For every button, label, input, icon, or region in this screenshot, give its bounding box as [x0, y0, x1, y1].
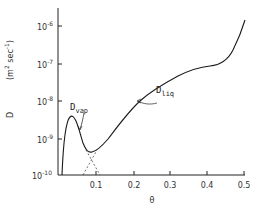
dliq-label: Dliq [137, 85, 174, 104]
svg-text:D: D [6, 112, 15, 118]
svg-text:0.1: 0.1 [90, 181, 103, 190]
x-axis-title: θ [150, 196, 155, 205]
y-axis-title: D [6, 112, 15, 118]
svg-text:10-8: 10-8 [37, 95, 53, 107]
dvap-extrapolation [86, 150, 100, 175]
svg-text:10-10: 10-10 [32, 169, 52, 181]
diffusivity-curve [62, 20, 245, 175]
svg-text:10-7: 10-7 [37, 58, 53, 70]
y-ticks [58, 26, 62, 139]
svg-text:0.5: 0.5 [238, 181, 251, 190]
svg-text:0.2: 0.2 [128, 181, 141, 190]
x-tick-labels: 0.1 0.2 0.3 0.4 0.5 [90, 181, 251, 190]
x-ticks [96, 171, 244, 175]
svg-text:0.4: 0.4 [201, 181, 214, 190]
svg-text:Dliq: Dliq [156, 85, 174, 98]
svg-text:Dvap: Dvap [70, 102, 88, 115]
y-tick-labels: 10-6 10-7 10-8 10-9 10-10 [32, 20, 53, 181]
svg-text:10-6: 10-6 [37, 20, 53, 32]
dliq-extrapolation [83, 150, 97, 175]
svg-text:(m2 sec-1): (m2 sec-1) [3, 40, 15, 80]
svg-text:0.3: 0.3 [164, 181, 177, 190]
chart: 10-6 10-7 10-8 10-9 10-10 0.1 0.2 0.3 0.… [0, 0, 256, 208]
svg-text:10-9: 10-9 [37, 133, 53, 145]
y-axis-unit: (m2 sec-1) [3, 40, 15, 80]
